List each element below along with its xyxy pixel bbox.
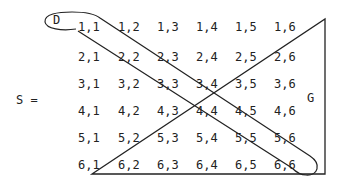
grid-cell: 2,3 [157, 51, 179, 63]
grid-cell: 1,4 [196, 21, 218, 33]
grid-cell: 3,4 [196, 78, 218, 90]
grid-cell: 3,6 [274, 78, 296, 90]
grid-cell: 6,4 [196, 159, 218, 171]
region-g-label: G [307, 92, 314, 104]
region-d-label: D [53, 14, 60, 26]
grid-cell: 5,3 [157, 132, 179, 144]
grid-cell: 2,6 [274, 51, 296, 63]
region-g-triangle [92, 19, 325, 174]
grid-cell: 4,6 [274, 105, 296, 117]
grid-cell: 5,6 [274, 132, 296, 144]
grid-cell: 3,3 [157, 78, 179, 90]
grid-cell: 6,6 [274, 159, 296, 171]
set-label: S = [16, 94, 38, 106]
grid-cell: 1,5 [235, 21, 257, 33]
grid-cell: 2,4 [196, 51, 218, 63]
grid-cell: 1,6 [274, 21, 296, 33]
grid-cell: 3,1 [78, 78, 100, 90]
grid-cell: 4,2 [118, 105, 140, 117]
grid-cell: 1,3 [157, 21, 179, 33]
grid-cell: 4,3 [157, 105, 179, 117]
grid-cell: 2,5 [235, 51, 257, 63]
grid-cell: 6,1 [78, 159, 100, 171]
grid-cell: 2,1 [78, 51, 100, 63]
grid-cell: 5,5 [235, 132, 257, 144]
grid-cell: 2,2 [118, 51, 140, 63]
grid-cell: 6,3 [157, 159, 179, 171]
grid-cell: 4,4 [196, 105, 218, 117]
grid-cell: 5,2 [118, 132, 140, 144]
grid-cell: 5,4 [196, 132, 218, 144]
grid-cell: 4,5 [235, 105, 257, 117]
region-d-band [45, 12, 317, 175]
grid-cell: 1,2 [118, 21, 140, 33]
grid-cell: 6,2 [118, 159, 140, 171]
grid-cell: 1,1 [78, 21, 100, 33]
grid-cell: 4,1 [78, 105, 100, 117]
grid-cell: 5,1 [78, 132, 100, 144]
grid-cell: 3,2 [118, 78, 140, 90]
grid-cell: 3,5 [235, 78, 257, 90]
grid-cell: 6,5 [235, 159, 257, 171]
